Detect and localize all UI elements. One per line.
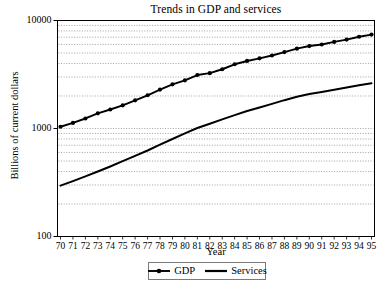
gridlines	[59, 25, 374, 204]
series-line-gdp	[61, 35, 372, 127]
data-point-marker	[320, 42, 324, 46]
y-tick-label: 1000	[32, 123, 52, 133]
data-point-marker	[183, 78, 187, 82]
data-point-marker	[270, 53, 274, 57]
data-point-marker	[282, 50, 286, 54]
series-line-services	[61, 83, 372, 185]
data-point-marker	[83, 116, 87, 120]
data-point-marker	[58, 125, 62, 129]
data-point-marker	[345, 37, 349, 41]
legend-label: Services	[231, 266, 267, 277]
series-markers-gdp	[58, 33, 373, 129]
x-tick-label: 95	[363, 241, 381, 251]
chart-figure: Trends in GDP and services Billions of c…	[0, 0, 390, 289]
y-tick-label: 10000	[27, 15, 52, 25]
legend-item-gdp[interactable]: GDP	[147, 266, 195, 277]
y-tick-marks	[54, 21, 58, 237]
data-point-marker	[170, 82, 174, 86]
data-point-marker	[369, 33, 373, 37]
y-tick-label: 100	[37, 231, 52, 241]
data-point-marker	[307, 44, 311, 48]
data-point-marker	[145, 93, 149, 97]
data-point-marker	[195, 73, 199, 77]
data-point-marker	[96, 111, 100, 115]
data-point-marker	[233, 62, 237, 66]
data-point-marker	[332, 40, 336, 44]
data-point-marker	[71, 121, 75, 125]
data-point-marker	[220, 67, 224, 71]
data-point-marker	[245, 59, 249, 63]
chart-legend: GDPServices	[148, 262, 266, 280]
data-point-marker	[133, 98, 137, 102]
data-point-marker	[208, 71, 212, 75]
data-point-marker	[121, 103, 125, 107]
legend-item-services[interactable]: Services	[204, 266, 267, 277]
data-point-marker	[108, 107, 112, 111]
data-point-marker	[257, 56, 261, 60]
data-point-marker	[295, 47, 299, 51]
legend-swatch-gdp	[147, 266, 171, 276]
legend-swatch-services	[204, 266, 228, 276]
data-point-marker	[357, 35, 361, 39]
data-point-marker	[158, 87, 162, 91]
legend-label: GDP	[174, 266, 195, 277]
